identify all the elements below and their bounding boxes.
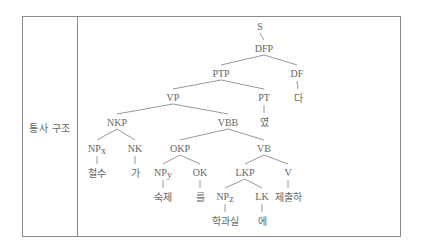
edge-VP-NKP	[117, 104, 173, 114]
node-DFP: DFP	[255, 43, 274, 54]
word-e: 에	[258, 216, 267, 227]
node-NKP: NKP	[107, 117, 127, 128]
tree-nodes: SDFPPTPDF다VPPT였NKPVBBNPxNK철수가OKPVBNPyOK숙…	[88, 21, 304, 227]
node-LKP: LKP	[236, 167, 255, 178]
node-NK: NK	[128, 143, 143, 154]
node-VB: VB	[257, 143, 271, 154]
node-VP: VP	[167, 92, 180, 103]
edge-PTP-VP	[173, 80, 221, 89]
node-OKP: OKP	[170, 143, 190, 154]
syntax-tree: SDFPPTPDF다VPPT였NKPVBBNPxNK철수가OKPVBNPyOK숙…	[0, 0, 423, 250]
edge-VBB-VB	[228, 129, 264, 140]
edge-LKP-NPz	[225, 179, 245, 188]
node-NPx: NPx	[88, 143, 106, 156]
word-ga: 가	[131, 168, 140, 179]
node-DF: DF	[291, 68, 304, 79]
node-S: S	[257, 21, 263, 32]
edge-DFP-PTP	[221, 55, 264, 65]
node-PTP: PTP	[212, 68, 230, 79]
edge-OKP-OK	[180, 155, 200, 164]
edge-NKP-NK	[117, 129, 135, 140]
edge-DF-da	[297, 81, 298, 89]
edge-OKP-NPy	[163, 155, 180, 164]
node-NPy: NPy	[154, 167, 172, 180]
edge-VB-LKP	[245, 155, 264, 164]
edge-VB-V	[264, 155, 288, 164]
edge-PTP-PT	[221, 80, 264, 89]
word-yeot: 였	[260, 117, 269, 128]
word-sukje: 숙제	[154, 192, 172, 203]
edge-NKP-NPx	[97, 129, 117, 140]
edge-VBB-OKP	[180, 129, 228, 140]
edge-VP-VBB	[173, 104, 228, 114]
word-cheolsu: 철수	[88, 168, 106, 179]
edge-S-DFP	[260, 33, 264, 40]
node-LK: LK	[255, 191, 269, 202]
edge-DFP-DF	[264, 55, 297, 65]
edge-LKP-LK	[245, 179, 262, 188]
word-hakgwasil: 학과실	[212, 216, 239, 227]
word-da: 다	[294, 93, 303, 104]
node-V: V	[284, 167, 292, 178]
node-VBB: VBB	[218, 117, 239, 128]
node-NPz: NPz	[216, 191, 234, 204]
word-reul: 를	[196, 192, 205, 203]
node-OK: OK	[193, 167, 208, 178]
word-jechulha: 제출하	[275, 191, 302, 203]
node-PT: PT	[258, 92, 270, 103]
